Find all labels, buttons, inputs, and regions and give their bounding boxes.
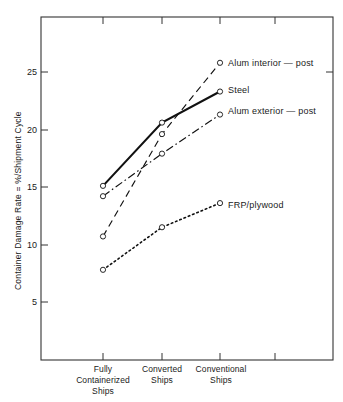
data-point-marker (100, 183, 105, 188)
x-tick-label-line: Conventional (196, 364, 247, 374)
y-tick-label: 20 (27, 125, 37, 135)
series-label-alum-interior: Alum interior — post (228, 58, 314, 68)
x-tick-label-line: Ships (151, 375, 173, 385)
y-tick-labels: 25 20 15 10 5 (27, 67, 37, 307)
series-label-frp-plywood: FRP/plywood (228, 200, 284, 210)
x-tick-label-line: Fully (94, 364, 113, 374)
data-point-marker (217, 89, 222, 94)
y-tick-label: 15 (27, 182, 37, 192)
x-tick-label-line: Converted (142, 364, 182, 374)
x-tick-label-line: Containerized (76, 375, 130, 385)
data-point-marker (100, 234, 105, 239)
line-chart: 25 20 15 10 5 Container Damage Rate = %/… (0, 0, 343, 402)
data-point-marker (100, 194, 105, 199)
y-axis-title: Container Damage Rate = %/Shipment Cycle (13, 111, 23, 290)
plot-frame (41, 17, 333, 360)
y-tick-label: 10 (27, 240, 37, 250)
data-point-marker (159, 132, 164, 137)
data-point-marker (217, 112, 222, 117)
data-point-marker (100, 267, 105, 272)
data-point-marker (159, 151, 164, 156)
x-tick-label-line: Ships (92, 386, 114, 396)
chart-figure: 25 20 15 10 5 Container Damage Rate = %/… (0, 0, 343, 402)
y-tick-label: 25 (27, 67, 37, 77)
series-label-alum-exterior: Alum exterior — post (228, 106, 316, 116)
x-tick-labels: Fully Containerized Ships Converted Ship… (76, 364, 246, 396)
data-point-marker (159, 225, 164, 230)
data-point-marker (159, 120, 164, 125)
y-tick-label: 5 (32, 297, 37, 307)
data-point-marker (217, 201, 222, 206)
x-tick-label-line: Ships (210, 375, 232, 385)
data-point-marker (217, 60, 222, 65)
series-label-steel: Steel (228, 85, 250, 95)
